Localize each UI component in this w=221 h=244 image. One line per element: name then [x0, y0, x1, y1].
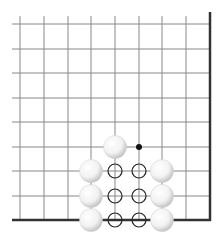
white-stone — [151, 160, 174, 183]
white-stone — [80, 160, 103, 183]
white-stone — [151, 209, 174, 232]
white-stone — [80, 209, 103, 232]
black-dot-marker — [136, 144, 142, 150]
grid-lines — [12, 16, 210, 220]
go-board — [0, 0, 221, 244]
white-stone — [104, 136, 127, 159]
white-stone — [151, 185, 174, 208]
stones — [80, 136, 174, 232]
white-stone — [80, 185, 103, 208]
